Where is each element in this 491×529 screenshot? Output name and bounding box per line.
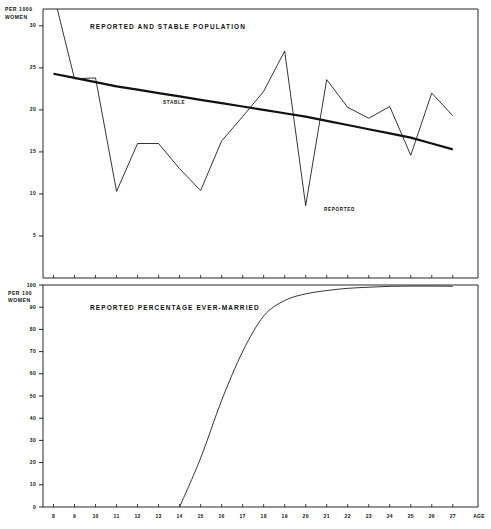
bottom-ytick-label-10: 10 <box>18 481 36 487</box>
bottom-ytick-label-40: 40 <box>18 415 36 421</box>
bottom-ytick-label-20: 20 <box>18 459 36 465</box>
xtick-label-23: 23 <box>362 513 376 519</box>
xtick-label-10: 10 <box>89 513 103 519</box>
top-ytick-label-10: 10 <box>18 190 36 196</box>
bottom-chart-title: REPORTED PERCENTAGE EVER-MARRIED <box>90 304 260 311</box>
stable-series-label: STABLE <box>163 100 185 105</box>
top-ytick-label-20: 20 <box>18 106 36 112</box>
top-y-axis-caption-line2: WOMEN <box>5 14 28 21</box>
top-ytick-label-5: 5 <box>18 232 36 238</box>
top-ytick-label-15: 15 <box>18 148 36 154</box>
bottom-series-ever-married <box>180 286 453 507</box>
xtick-label-11: 11 <box>110 513 124 519</box>
top-series-stable <box>54 74 453 150</box>
xtick-label-16: 16 <box>215 513 229 519</box>
reported-series-label: REPORTED <box>324 207 355 212</box>
top-ytick-label-30: 30 <box>18 22 36 28</box>
bottom-ytick-label-50: 50 <box>18 393 36 399</box>
top-series-reported <box>57 9 453 206</box>
bottom-ytick-label-0: 0 <box>18 504 36 510</box>
xtick-label-24: 24 <box>383 513 397 519</box>
xtick-label-13: 13 <box>152 513 166 519</box>
xtick-label-9: 9 <box>68 513 82 519</box>
xtick-label-25: 25 <box>404 513 418 519</box>
bottom-ytick-label-30: 30 <box>18 437 36 443</box>
figure-container: PER 1000WOMENREPORTED AND STABLE POPULAT… <box>0 0 491 529</box>
top-chart-title: REPORTED AND STABLE POPULATION <box>90 23 246 30</box>
xtick-label-14: 14 <box>173 513 187 519</box>
x-axis-age-label: AGE <box>470 513 488 519</box>
bottom-panel-frame <box>43 285 478 507</box>
bottom-ytick-label-100: 100 <box>18 282 36 288</box>
xtick-label-15: 15 <box>194 513 208 519</box>
xtick-label-17: 17 <box>236 513 250 519</box>
bottom-ytick-label-80: 80 <box>18 326 36 332</box>
xtick-label-26: 26 <box>425 513 439 519</box>
bottom-y-axis-caption-line1: PER 100 <box>8 290 32 297</box>
chart-canvas <box>0 0 491 529</box>
bottom-ytick-label-70: 70 <box>18 348 36 354</box>
xtick-label-20: 20 <box>299 513 313 519</box>
bottom-ytick-label-90: 90 <box>18 304 36 310</box>
xtick-label-22: 22 <box>341 513 355 519</box>
bottom-ytick-label-60: 60 <box>18 370 36 376</box>
xtick-label-12: 12 <box>131 513 145 519</box>
top-y-axis-caption-line1: PER 1000 <box>5 6 33 13</box>
xtick-label-19: 19 <box>278 513 292 519</box>
xtick-label-8: 8 <box>47 513 61 519</box>
xtick-label-21: 21 <box>320 513 334 519</box>
top-panel-frame <box>43 9 478 278</box>
top-ytick-label-25: 25 <box>18 64 36 70</box>
xtick-label-27: 27 <box>446 513 460 519</box>
xtick-label-18: 18 <box>257 513 271 519</box>
